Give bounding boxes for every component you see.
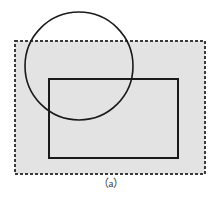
figure-container: （a） [0, 0, 222, 199]
figure-diagram [0, 0, 222, 199]
figure-caption: （a） [0, 176, 222, 190]
